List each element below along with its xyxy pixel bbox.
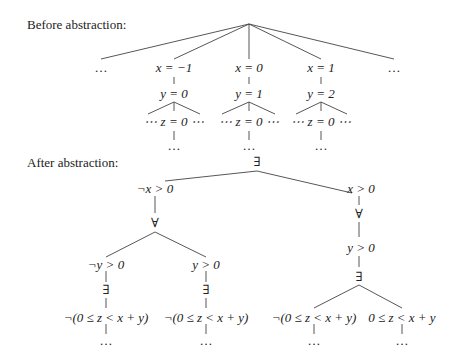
ellipsis-left-2: … (200, 333, 213, 348)
left-exists-1: ∃ (102, 282, 109, 297)
z-row-2: ⋯ z = 0 ⋯ (219, 114, 278, 129)
node-not-y-gt-0: ¬y > 0 (88, 257, 125, 272)
below-ellipsis-1: … (168, 138, 181, 153)
before-ellipsis-left: … (95, 60, 108, 75)
before-tree-nodes: … x = −1 x = 0 x = 1 … y = 0 y = 1 y = 2… (95, 60, 401, 153)
node-not-x-gt-0: ¬x > 0 (137, 181, 174, 196)
before-ellipsis-right: … (388, 60, 401, 75)
node-x-gt-0: x > 0 (346, 181, 375, 196)
left-forall: ∀ (151, 215, 159, 230)
left-exists-2: ∃ (202, 282, 209, 297)
ellipsis-right-2: … (396, 333, 409, 348)
node-x-0: x = 0 (234, 60, 263, 75)
before-heading: Before abstraction: (27, 17, 126, 32)
root-exists: ∃ (253, 154, 260, 169)
node-x-minus1: x = −1 (155, 60, 192, 75)
after-tree-nodes: ∃ ¬x > 0 ∀ ¬y > 0 y > 0 ∃ ∃ ¬(0 ≤ z < x … (64, 154, 436, 348)
node-y-1: y = 1 (233, 86, 263, 101)
below-ellipsis-2: … (243, 138, 256, 153)
ellipsis-right-1: … (308, 333, 321, 348)
right-forall: ∀ (355, 206, 363, 221)
abstraction-diagram: Before abstraction: After abstraction: …… (0, 0, 469, 364)
node-x-1: x = 1 (306, 60, 335, 75)
node-y-0: y = 0 (158, 86, 188, 101)
right-exists: ∃ (355, 269, 362, 284)
formula-right-2: 0 ≤ z < x + y (368, 310, 436, 325)
z-row-1: ⋯ z = 0 ⋯ (144, 114, 203, 129)
z-row-3: ⋯ z = 0 ⋯ (291, 114, 350, 129)
below-ellipsis-3: … (315, 138, 328, 153)
formula-left-2: ¬(0 ≤ z < x + y) (164, 310, 249, 325)
formula-right-1: ¬(0 ≤ z < x + y) (272, 310, 357, 325)
after-heading: After abstraction: (27, 155, 118, 170)
node-y-gt-0-left: y > 0 (190, 257, 220, 272)
node-y-gt-0-right: y > 0 (345, 240, 375, 255)
ellipsis-left-1: … (100, 333, 113, 348)
node-y-2: y = 2 (305, 86, 335, 101)
formula-left-1: ¬(0 ≤ z < x + y) (64, 310, 149, 325)
